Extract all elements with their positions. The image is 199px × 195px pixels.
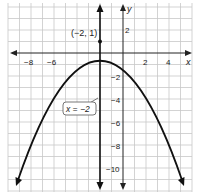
x-axis (10, 50, 192, 56)
tick-x-m6: −6 (47, 58, 57, 67)
symmetry-callout: x = −2 (63, 98, 98, 115)
tick-y-m8: −8 (111, 142, 121, 151)
tick-x-m8: −8 (24, 58, 34, 67)
vertex-point (98, 40, 102, 44)
x-axis-label: x (185, 57, 191, 67)
tick-y-m2: −2 (111, 73, 121, 82)
symmetry-label: x = −2 (65, 104, 90, 114)
tick-y-m10: −10 (106, 165, 120, 174)
axis-of-symmetry (97, 4, 104, 190)
tick-x-2: 2 (143, 58, 148, 67)
tick-y-m6: −6 (111, 119, 121, 128)
tick-x-4: 4 (166, 58, 171, 67)
chart: (−2, 1) x y −8 −6 2 4 2 −2 −4 −6 −8 −10 … (0, 0, 199, 195)
tick-y-m4: −4 (111, 96, 121, 105)
vertex-label: (−2, 1) (71, 28, 97, 38)
tick-y-2: 2 (125, 26, 130, 35)
y-axis-label: y (126, 4, 132, 14)
